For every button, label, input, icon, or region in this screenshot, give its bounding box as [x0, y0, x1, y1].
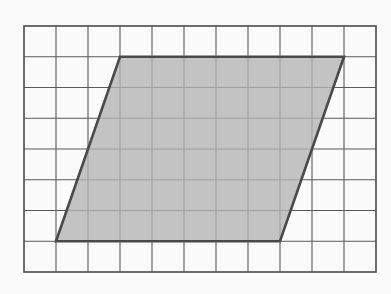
parallelogram-grid-diagram [0, 0, 391, 294]
parallelogram-shape [56, 57, 344, 242]
figure-canvas [0, 0, 391, 294]
